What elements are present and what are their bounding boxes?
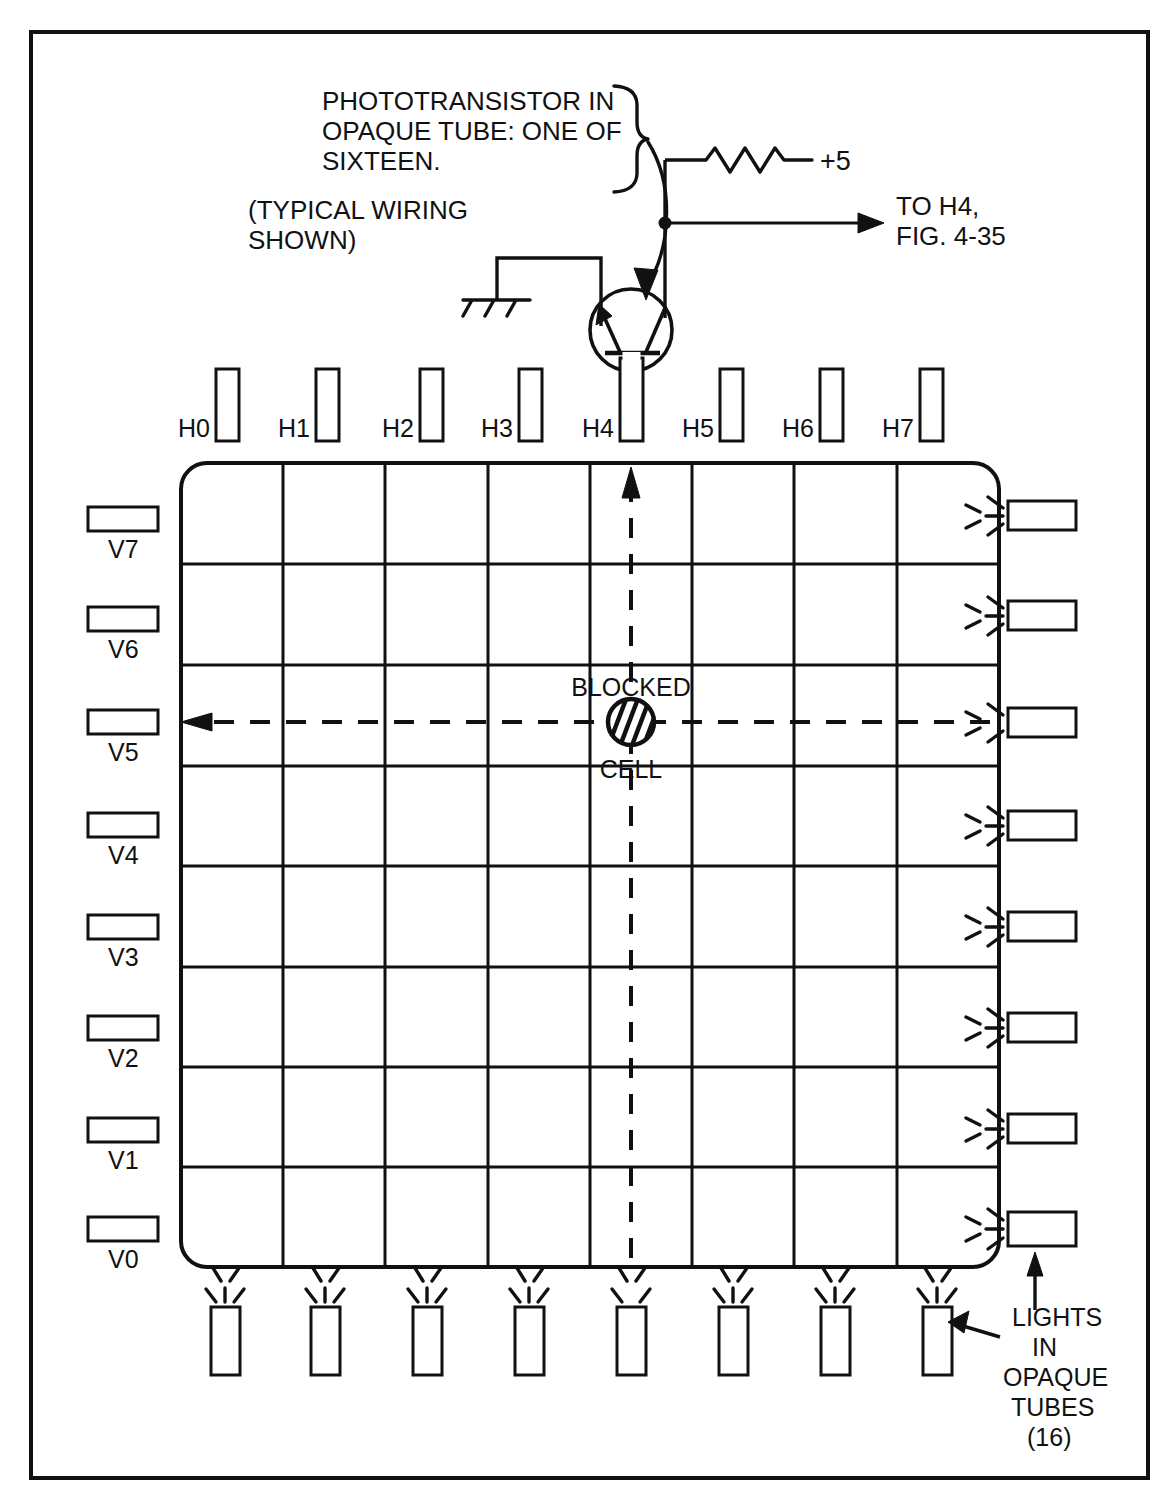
sensor-tube-h5 <box>720 369 743 441</box>
transistor-emitter-arrow <box>596 304 612 325</box>
chassis-ground <box>463 300 530 316</box>
sensor-label-h6: H6 <box>782 414 814 442</box>
phototransistor-note-line-3: SIXTEEN. <box>322 146 440 176</box>
sensor-tube-h0 <box>216 369 239 441</box>
light-tube-bottom-h0 <box>211 1307 240 1375</box>
light-tube-bottom-h6 <box>821 1307 850 1375</box>
light-tube-right-v0 <box>1008 1212 1076 1246</box>
output-label-line-2: FIG. 4-35 <box>896 221 1006 251</box>
typical-wiring-note-line-2: SHOWN) <box>248 225 356 255</box>
sensor-tube-v2 <box>88 1016 158 1040</box>
lights-caption-line-5: (16) <box>1027 1423 1071 1451</box>
transistor-collector-lead <box>646 308 665 352</box>
light-tube-bottom-h5 <box>719 1307 748 1375</box>
sensor-tube-h1 <box>316 369 339 441</box>
lights-caption-line-1: LIGHTS <box>1012 1303 1102 1331</box>
light-tube-right-v3 <box>1008 912 1076 941</box>
light-tube-right-v6 <box>1008 601 1076 630</box>
wire-junction-dot <box>659 217 672 230</box>
light-tube-bottom-h1 <box>311 1307 340 1375</box>
sensor-tube-h2 <box>420 369 443 441</box>
sensor-tube-v7 <box>88 507 158 531</box>
sensor-tube-h4-merge-mask <box>623 352 641 368</box>
sensor-label-h1: H1 <box>278 414 310 442</box>
sensor-label-h4: H4 <box>582 414 614 442</box>
sensor-label-v2: V2 <box>108 1044 139 1072</box>
light-tube-right-v7 <box>1008 501 1076 530</box>
bottom-light-group-h0 <box>206 1268 244 1375</box>
sensor-label-v7: V7 <box>108 535 139 563</box>
bottom-light-group-h1 <box>306 1268 344 1375</box>
light-tube-right-v5 <box>1008 708 1076 737</box>
light-tube-right-v2 <box>1008 1013 1076 1042</box>
sensor-tube-v3 <box>88 915 158 939</box>
sensor-label-h7: H7 <box>882 414 914 442</box>
light-tube-bottom-h3 <box>515 1307 544 1375</box>
light-tube-bottom-h4 <box>617 1307 646 1375</box>
sensor-tube-v4 <box>88 813 158 837</box>
sensor-tube-h4 <box>620 358 643 441</box>
bottom-light-group-h4 <box>612 1268 650 1375</box>
phototransistor-note-line-1: PHOTOTRANSISTOR IN <box>322 86 614 116</box>
sensor-label-v3: V3 <box>108 943 139 971</box>
sensor-tube-v5 <box>88 710 158 734</box>
lights-caption-arrow-left-line <box>963 1326 1000 1337</box>
bottom-light-group-h2 <box>408 1268 446 1375</box>
sensor-label-h5: H5 <box>682 414 714 442</box>
sensor-label-h0: H0 <box>178 414 210 442</box>
light-tube-right-v1 <box>1008 1114 1076 1143</box>
sensor-tube-h3 <box>519 369 542 441</box>
sensor-label-h3: H3 <box>481 414 513 442</box>
sensor-label-v1: V1 <box>108 1146 139 1174</box>
technical-diagram: PHOTOTRANSISTOR IN OPAQUE TUBE: ONE OF S… <box>0 0 1171 1488</box>
sensor-label-v5: V5 <box>108 738 139 766</box>
sensor-label-v4: V4 <box>108 841 139 869</box>
sensor-tube-v6 <box>88 607 158 631</box>
sensor-label-h2: H2 <box>382 414 414 442</box>
sensor-label-v0: V0 <box>108 1245 139 1273</box>
phototransistor-note-line-2: OPAQUE TUBE: ONE OF <box>322 116 622 146</box>
lights-caption-arrow-up-head <box>1027 1252 1043 1276</box>
lights-caption-line-4: TUBES <box>1011 1393 1094 1421</box>
lights-caption-line-2: IN <box>1032 1333 1057 1361</box>
sensor-label-v6: V6 <box>108 635 139 663</box>
sensor-tube-h6 <box>820 369 843 441</box>
bottom-light-group-h6 <box>816 1268 854 1375</box>
light-tube-bottom-h7 <box>923 1307 952 1375</box>
lights-caption-line-3: OPAQUE <box>1003 1363 1108 1391</box>
blocked-cell-label-bottom: CELL <box>600 755 663 783</box>
sensor-tube-v1 <box>88 1118 158 1142</box>
sensor-tube-h7 <box>920 369 943 441</box>
figure-root: PHOTOTRANSISTOR IN OPAQUE TUBE: ONE OF S… <box>0 0 1171 1488</box>
light-tube-right-v4 <box>1008 811 1076 840</box>
pull-up-resistor <box>706 148 812 172</box>
supply-label: +5 <box>820 146 851 176</box>
bottom-light-group-h5 <box>714 1268 752 1375</box>
base-wire <box>497 258 601 326</box>
typical-wiring-note-line-1: (TYPICAL WIRING <box>248 195 468 225</box>
sensor-tube-v0 <box>88 1217 158 1241</box>
output-label-line-1: TO H4, <box>896 191 979 221</box>
bottom-light-group-h3 <box>510 1268 548 1375</box>
output-arrow-head <box>858 213 884 233</box>
light-tube-bottom-h2 <box>413 1307 442 1375</box>
